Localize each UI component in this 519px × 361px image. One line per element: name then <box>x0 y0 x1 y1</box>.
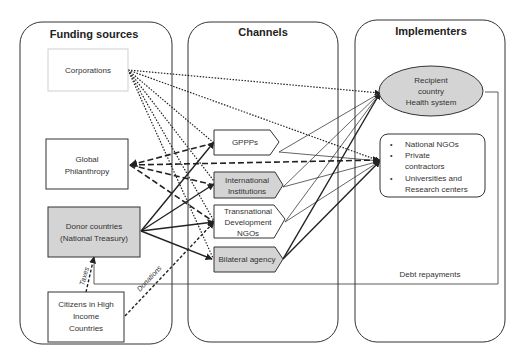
svg-text:country: country <box>418 87 444 96</box>
svg-text:Research centers: Research centers <box>405 185 468 194</box>
recipient-health-system-node: Recipient country Health system <box>379 66 483 116</box>
debt-repayments-label: Debt repayments <box>400 270 461 279</box>
bilateral-to-implementer-flows <box>283 93 380 259</box>
implementers-title: Implementers <box>395 25 467 37</box>
svg-text:Countries: Countries <box>69 324 103 333</box>
svg-text:Global: Global <box>75 155 98 164</box>
svg-text:Bilateral agency: Bilateral agency <box>219 255 276 264</box>
svg-text:Income: Income <box>73 312 100 321</box>
global-philanthropy-box: Global Philanthropy <box>46 139 128 189</box>
svg-text:NGOs: NGOs <box>237 229 259 238</box>
gppps-channel: GPPPs <box>214 130 279 155</box>
svg-text:Philanthropy: Philanthropy <box>65 167 109 176</box>
svg-text:Universities and: Universities and <box>405 174 462 183</box>
svg-text:Recipient: Recipient <box>414 76 448 85</box>
svg-text:Health system: Health system <box>406 98 457 107</box>
channels-title: Channels <box>238 26 288 38</box>
citizens-box: Citizens in High Income Countries <box>48 292 124 342</box>
corporations-box: Corporations <box>48 49 128 91</box>
health-funding-diagram: Funding sources Channels Implementers De… <box>0 0 519 361</box>
svg-text:Transnational: Transnational <box>224 207 272 216</box>
svg-text:National NGOs: National NGOs <box>405 140 459 149</box>
svg-text:Donor countries: Donor countries <box>66 222 122 231</box>
bilateral-agency-channel: Bilateral agency <box>214 247 283 272</box>
donations-label: Donations <box>135 263 164 293</box>
other-implementers-box: • National NGOs • Private contractors • … <box>380 134 485 197</box>
svg-text:Private: Private <box>405 151 430 160</box>
svg-text:International: International <box>225 176 269 185</box>
svg-text:contractors: contractors <box>405 162 445 171</box>
svg-text:Corporations: Corporations <box>65 66 111 75</box>
transnational-ngos-channel: Transnational Development NGOs <box>214 205 285 238</box>
donor-countries-box: Donor countries (National Treasury) <box>48 207 140 257</box>
svg-text:Citizens in High: Citizens in High <box>58 300 114 309</box>
funding-sources-title: Funding sources <box>50 28 139 40</box>
svg-text:GPPPs: GPPPs <box>232 138 258 147</box>
channel-to-implementer-flows <box>279 93 380 222</box>
svg-text:(National Treasury): (National Treasury) <box>60 234 128 243</box>
svg-text:Institutions: Institutions <box>228 187 266 196</box>
svg-text:Development: Development <box>224 218 272 227</box>
international-institutions-channel: International Institutions <box>214 172 283 198</box>
